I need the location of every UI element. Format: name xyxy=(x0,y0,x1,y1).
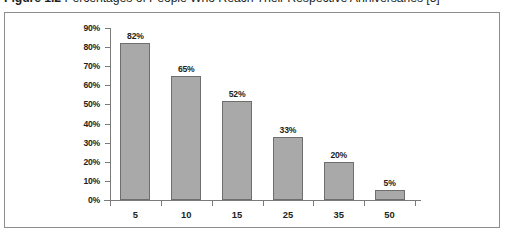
bar-value-label: 82% xyxy=(110,31,160,41)
bar-value-label: 52% xyxy=(212,89,262,99)
bar xyxy=(222,101,252,200)
y-axis-tick-label: 10% xyxy=(64,176,100,186)
x-axis-category-label: 50 xyxy=(365,209,415,220)
bar xyxy=(120,43,150,200)
x-axis-category-label: 10 xyxy=(161,209,211,220)
bar xyxy=(375,190,405,200)
y-axis-tick xyxy=(105,28,110,29)
x-axis-category-label: 35 xyxy=(314,209,364,220)
y-axis-tick xyxy=(105,143,110,144)
x-axis-tick xyxy=(110,201,111,206)
y-axis-tick-label: 40% xyxy=(64,119,100,129)
y-axis-tick-label: 30% xyxy=(64,138,100,148)
bar xyxy=(273,137,303,200)
x-axis-category-label: 5 xyxy=(110,209,160,220)
y-axis-tick-label: 50% xyxy=(64,99,100,109)
x-axis-tick xyxy=(161,201,162,206)
y-axis-tick xyxy=(105,47,110,48)
y-axis-tick xyxy=(105,85,110,86)
figure-caption-text: Percentages of People Who Reach Their Re… xyxy=(64,0,439,5)
y-axis-tick-label: 20% xyxy=(64,157,100,167)
x-axis-tick xyxy=(263,201,264,206)
bar-value-label: 65% xyxy=(161,64,211,74)
y-axis-line xyxy=(110,28,111,201)
y-axis-tick xyxy=(105,104,110,105)
bar xyxy=(171,76,201,200)
bar xyxy=(324,162,354,200)
y-axis-tick-label: 0% xyxy=(64,195,100,205)
figure-caption-label: Figure 1.2 xyxy=(4,0,61,5)
y-axis-tick xyxy=(105,66,110,67)
x-axis-tick xyxy=(364,201,365,206)
x-axis-category-label: 15 xyxy=(212,209,262,220)
x-axis-tick xyxy=(313,201,314,206)
y-axis-tick-label: 70% xyxy=(64,61,100,71)
y-axis-tick xyxy=(105,124,110,125)
y-axis-labels: 90%80%70%60%50%40%30%20%10%0% xyxy=(62,0,100,241)
bar-value-label: 5% xyxy=(365,178,415,188)
y-axis-tick xyxy=(105,162,110,163)
x-axis-tick xyxy=(212,201,213,206)
y-axis-tick xyxy=(105,181,110,182)
x-axis-category-label: 25 xyxy=(263,209,313,220)
bar-value-label: 33% xyxy=(263,125,313,135)
x-axis-tick xyxy=(415,201,416,206)
bar-value-label: 20% xyxy=(314,150,364,160)
y-axis-tick-label: 60% xyxy=(64,80,100,90)
y-axis-tick-label: 90% xyxy=(64,23,100,33)
y-axis-tick-label: 80% xyxy=(64,42,100,52)
